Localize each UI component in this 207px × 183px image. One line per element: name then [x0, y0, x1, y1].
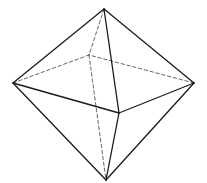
edge-front-bottom: [106, 113, 119, 180]
edge-right-bottom: [106, 83, 194, 180]
octahedron-figure: [0, 0, 207, 183]
edge-top-left: [13, 9, 104, 83]
hidden-edge-right-back: [89, 55, 194, 83]
edge-top-front: [104, 9, 119, 113]
visible-edges: [13, 9, 194, 180]
hidden-edge-left-back: [13, 55, 89, 83]
edge-left-bottom: [13, 83, 106, 180]
edge-right-front: [119, 83, 194, 113]
edge-left-front: [13, 83, 119, 113]
octahedron-diagram: [0, 0, 207, 183]
edge-top-right: [104, 9, 194, 83]
hidden-edge-back-bottom: [89, 55, 106, 180]
